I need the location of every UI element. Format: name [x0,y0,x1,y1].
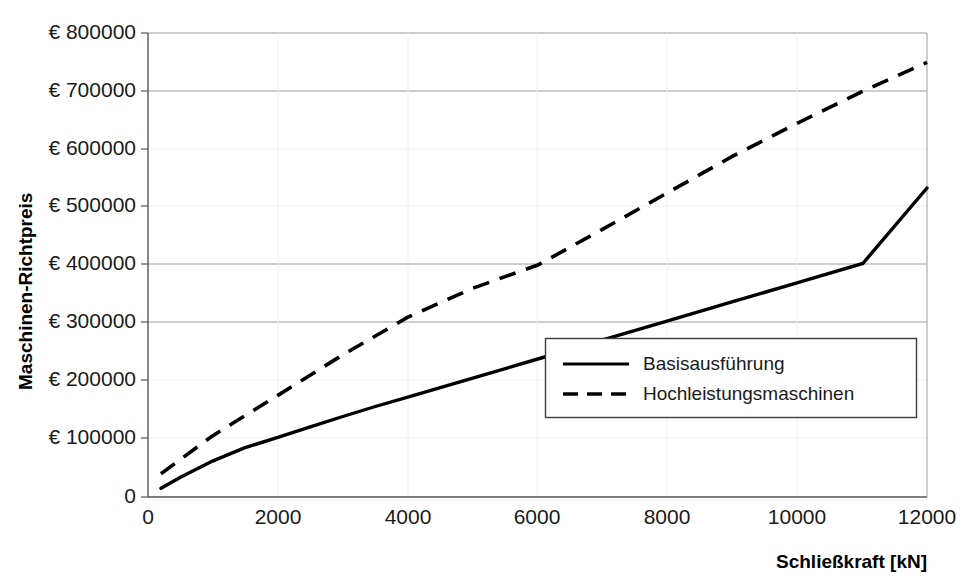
xtick-label-0: 0 [142,505,154,528]
ytick-label-500000: € 500000 [48,193,136,216]
ytick-label-600000: € 600000 [48,136,136,159]
ytick-label-200000: € 200000 [48,367,136,390]
chart-figure: € 800000 € 700000 € 600000 € 500000 € 40… [0,0,968,587]
y-axis-title: Maschinen-Richtpreis [15,193,36,390]
x-axis-title: Schließkraft [kN] [776,551,927,572]
ytick-label-0: 0 [124,484,136,507]
ytick-label-100000: € 100000 [48,425,136,448]
y-axis-tick-labels: € 800000 € 700000 € 600000 € 500000 € 40… [48,20,136,507]
legend-label-hochleistungsmaschinen: Hochleistungsmaschinen [643,383,854,404]
legend[interactable]: Basisausführung Hochleistungsmaschinen [546,339,917,418]
legend-background [546,339,917,418]
legend-label-basisausfuehrung: Basisausführung [643,353,785,374]
xtick-label-8000: 8000 [644,505,691,528]
xtick-label-6000: 6000 [514,505,561,528]
ytick-label-800000: € 800000 [48,20,136,43]
xtick-label-10000: 10000 [768,505,826,528]
ytick-label-700000: € 700000 [48,78,136,101]
xtick-label-2000: 2000 [255,505,302,528]
xtick-label-12000: 12000 [898,505,956,528]
ytick-label-400000: € 400000 [48,251,136,274]
xtick-label-4000: 4000 [385,505,432,528]
ytick-label-300000: € 300000 [48,309,136,332]
